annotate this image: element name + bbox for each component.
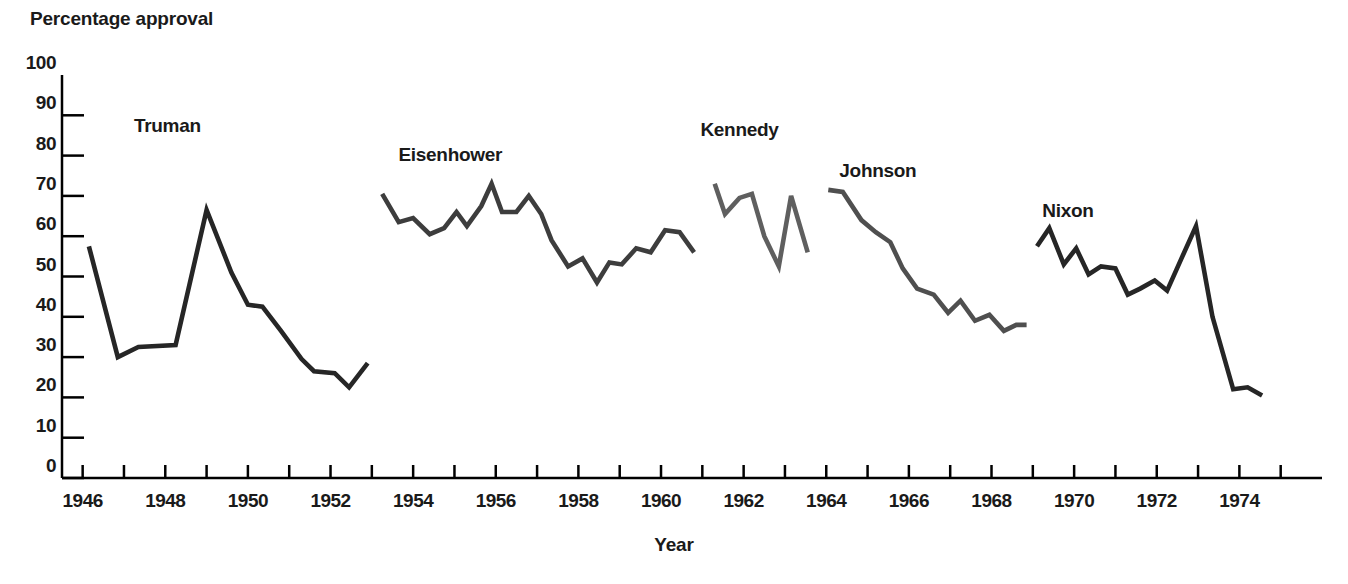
series-line-eisenhower	[382, 184, 694, 283]
approval-rating-chart: Percentage approval Year 010203040506070…	[0, 0, 1348, 584]
plot-area	[0, 0, 1348, 584]
series-line-truman	[89, 210, 368, 387]
series-line-johnson	[828, 190, 1026, 331]
axes	[62, 75, 1322, 478]
series-line-nixon	[1037, 226, 1262, 395]
data-series	[89, 184, 1262, 396]
series-line-kennedy	[715, 184, 808, 267]
